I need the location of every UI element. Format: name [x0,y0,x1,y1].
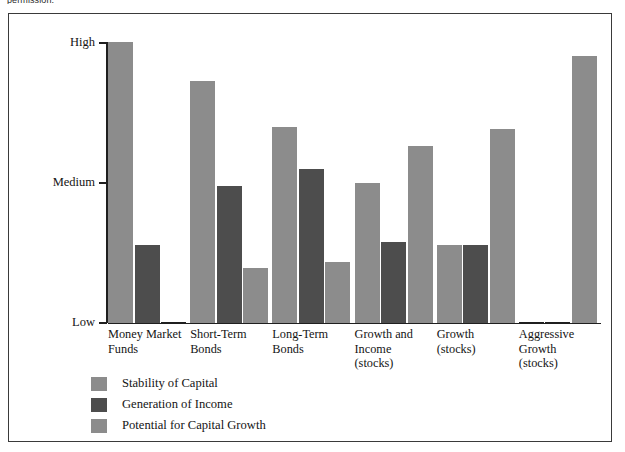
bar-groups [108,42,601,324]
legend-item: Potential for Capital Growth [91,415,266,436]
x-axis-label: Money Market Funds [108,327,190,371]
bar [190,81,215,324]
bar [272,127,297,324]
bar [108,42,133,324]
x-axis-label: Growth (stocks) [437,327,519,371]
bar [490,129,515,324]
bar [217,186,242,324]
chart-legend: Stability of CapitalGeneration of Income… [91,373,266,436]
bar [299,169,324,324]
legend-swatch-icon [91,419,107,433]
legend-label: Generation of Income [122,397,233,412]
bar [437,245,462,324]
y-tick-low [99,322,107,324]
y-axis-label-medium: Medium [53,175,95,190]
bar-group [355,42,437,324]
y-axis-label-high: High [70,35,95,50]
x-axis-label: Long-Term Bonds [272,327,354,371]
bar-group [108,42,190,324]
x-axis-label: Growth and Income (stocks) [355,327,437,371]
plot-area [108,42,601,324]
y-tick-medium [99,182,107,184]
legend-label: Potential for Capital Growth [122,418,266,433]
x-axis-labels: Money Market FundsShort-Term BondsLong-T… [108,327,601,371]
bar-group [437,42,519,324]
bar-group [519,42,601,324]
x-axis-label: Short-Term Bonds [190,327,272,371]
bar [135,245,160,324]
bar [243,268,268,324]
bar [408,146,433,324]
bar-chart: High Medium Low Money Market FundsShort-… [9,14,613,443]
legend-label: Stability of Capital [122,376,218,391]
page-text-fragment: permission. [7,0,54,4]
bar [325,262,350,324]
chart-figure-frame: High Medium Low Money Market FundsShort-… [8,13,612,442]
x-axis-label: Aggressive Growth (stocks) [519,327,601,371]
legend-swatch-icon [91,398,107,412]
legend-item: Generation of Income [91,394,266,415]
bar [355,183,380,324]
bar-group [190,42,272,324]
bar [572,56,597,324]
bar-group [272,42,354,324]
y-axis-label-low: Low [72,315,95,330]
bar [381,242,406,324]
legend-item: Stability of Capital [91,373,266,394]
y-tick-high [99,42,107,44]
legend-swatch-icon [91,377,107,391]
x-axis-baseline [108,323,601,325]
bar [463,245,488,324]
